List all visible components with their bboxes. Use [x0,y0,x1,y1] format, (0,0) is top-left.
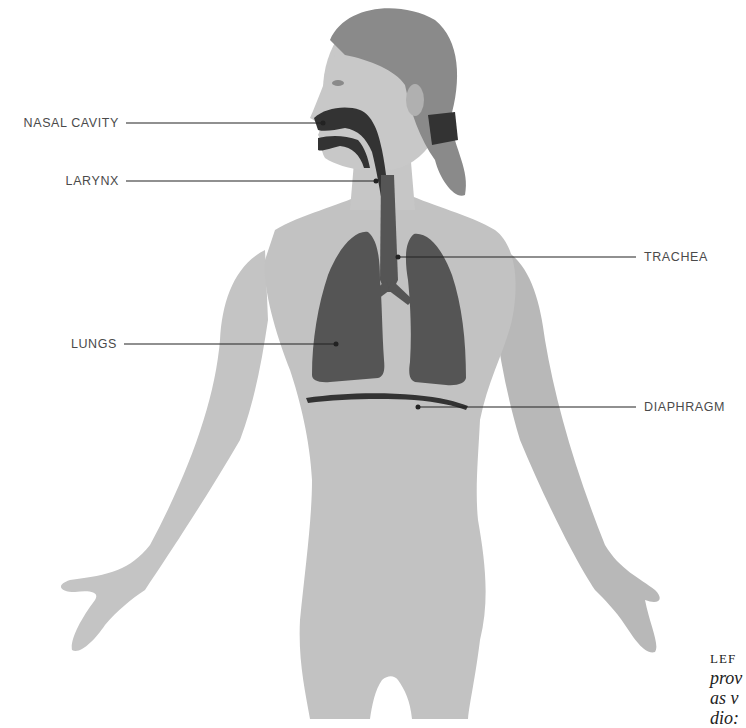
caption-line: dio: [710,708,739,728]
label-nasal-cavity: NASAL CAVITY [0,116,119,130]
caption-line: as v [710,688,739,709]
caption-line: prov [710,668,742,689]
label-trachea: TRACHEA [644,250,708,264]
caption-heading: LEF [710,651,736,667]
caption: LEF prov as v dio: [710,0,746,719]
label-larynx: LARYNX [0,174,119,188]
label-lungs: LUNGS [0,337,117,351]
